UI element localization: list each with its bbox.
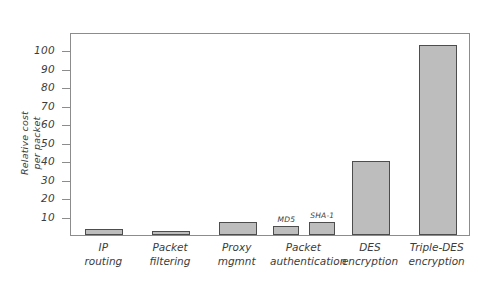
y-axis-tick-mark — [62, 181, 70, 182]
bar: MD5 — [273, 226, 299, 235]
y-axis-tick: 80 — [0, 88, 70, 89]
x-axis-category-label-line: Packet — [137, 240, 204, 254]
x-axis-category-label: Packetfiltering — [137, 240, 204, 268]
x-axis-category-label-line: DES — [337, 240, 404, 254]
y-axis-tick: 20 — [0, 199, 70, 200]
x-axis-category-label-line: Triple-DES — [403, 240, 470, 254]
y-axis-tick: 100 — [0, 51, 70, 52]
x-axis-category-label-line: Packet — [270, 240, 337, 254]
bar — [219, 222, 257, 235]
bar — [419, 45, 457, 235]
y-axis-tick-label: 70 — [41, 100, 55, 112]
x-axis-category-label: Triple-DESencryption — [403, 240, 470, 268]
x-axis-category-label-line: filtering — [137, 254, 204, 268]
x-axis-category-label-line: encryption — [337, 254, 404, 268]
y-axis-tick: 40 — [0, 162, 70, 163]
bar-value-label: MD5 — [278, 215, 296, 224]
x-axis-category-label-line: encryption — [403, 254, 470, 268]
y-axis-tick-mark — [62, 144, 70, 145]
y-axis-tick-mark — [62, 199, 70, 200]
x-axis-category-label-line: authentication — [270, 254, 337, 268]
bar — [352, 161, 390, 235]
y-axis-tick-mark — [62, 88, 70, 89]
y-axis-tick-label: 90 — [41, 63, 55, 75]
x-axis-category-label-line: Proxy — [203, 240, 270, 254]
x-axis-category-label: DESencryption — [337, 240, 404, 268]
bar — [152, 231, 190, 235]
y-axis-tick: 50 — [0, 144, 70, 145]
y-axis-tick-mark — [62, 218, 70, 219]
y-axis-tick-mark — [62, 162, 70, 163]
y-axis-tick: 30 — [0, 181, 70, 182]
y-axis-tick-label: 10 — [41, 211, 55, 223]
x-axis-category-label: IProuting — [70, 240, 137, 268]
x-axis-category-label: Packetauthentication — [270, 240, 337, 268]
bar: SHA-1 — [309, 222, 335, 235]
bar-chart: Relative cost per packet 102030405060708… — [0, 0, 490, 285]
y-axis-tick-label: 20 — [41, 192, 55, 204]
y-axis-tick: 10 — [0, 218, 70, 219]
y-axis-tick-mark — [62, 107, 70, 108]
y-axis-tick-label: 80 — [41, 81, 55, 93]
x-axis-category-label: Proxymgmnt — [203, 240, 270, 268]
y-axis-tick-label: 60 — [41, 118, 55, 130]
y-axis-tick-mark — [62, 51, 70, 52]
y-axis-tick-mark — [62, 70, 70, 71]
y-axis-tick: 60 — [0, 125, 70, 126]
bar-value-label: SHA-1 — [310, 211, 334, 220]
y-axis-tick-mark — [62, 125, 70, 126]
y-axis-tick-label: 30 — [41, 174, 55, 186]
plot-area: MD5SHA-1 — [70, 33, 470, 236]
y-axis-tick: 70 — [0, 107, 70, 108]
x-axis-category-label-line: IP — [70, 240, 137, 254]
y-axis-tick-label: 40 — [41, 155, 55, 167]
x-axis-category-label-line: routing — [70, 254, 137, 268]
y-axis-tick: 90 — [0, 70, 70, 71]
x-axis-category-label-line: mgmnt — [203, 254, 270, 268]
y-axis-tick-label: 50 — [41, 137, 55, 149]
bar — [85, 229, 123, 235]
y-axis-tick-label: 100 — [34, 44, 55, 56]
